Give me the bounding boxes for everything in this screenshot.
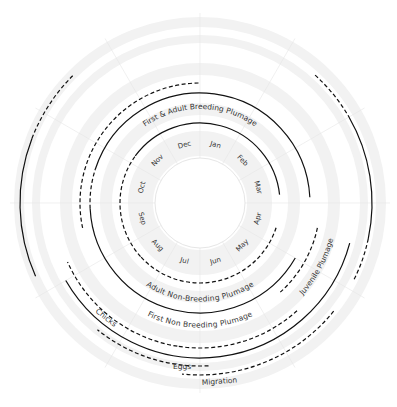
bird-lifecycle-diagram: JanFebMarAprMayJunJulAugSepOctNovDec Fir… — [0, 0, 397, 407]
circular-calendar-chart: JanFebMarAprMayJunJulAugSepOctNovDec Fir… — [0, 0, 397, 407]
label-eggs: Eggs — [173, 362, 191, 371]
center-circle — [155, 158, 245, 248]
